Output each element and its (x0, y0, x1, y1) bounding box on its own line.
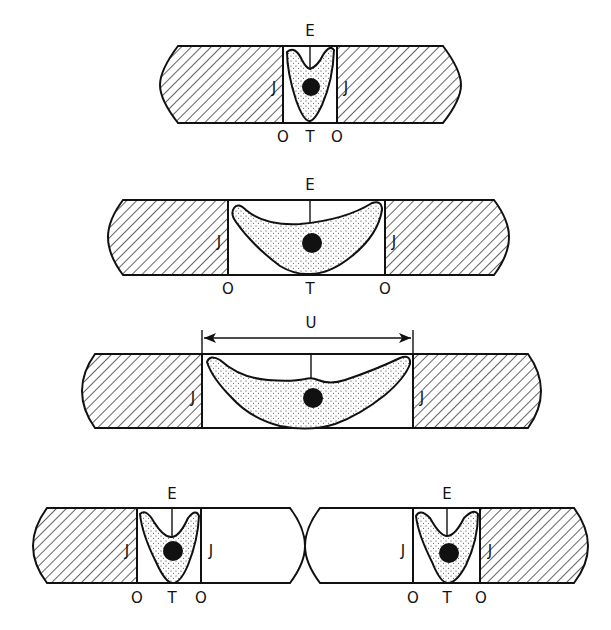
label-O-left: O (222, 280, 234, 298)
hatched-block-left (108, 200, 228, 275)
label-J-right: J (208, 542, 213, 560)
label-J-left: J (400, 542, 405, 560)
nucleus (303, 388, 323, 408)
label-J-left: J (216, 233, 221, 251)
label-O-right: O (195, 589, 207, 607)
nucleus (302, 78, 320, 96)
label-E: E (442, 485, 451, 503)
label-O-right: O (379, 280, 391, 298)
hatched-block (480, 508, 588, 583)
label-T: T (304, 128, 315, 146)
hatched-block (33, 508, 137, 583)
label-J-right: J (343, 79, 348, 97)
label-O-left: O (131, 589, 143, 607)
label-O-left: O (277, 128, 289, 146)
label-O-right: O (331, 128, 343, 146)
label-J-right: J (487, 542, 492, 560)
label-T: T (166, 589, 177, 607)
label-J-left: J (190, 389, 195, 407)
panel-4-right: E J J O T O (305, 485, 588, 607)
panel-1: E J J O T O (160, 22, 461, 146)
label-J-right: J (419, 389, 424, 407)
label-J-right: J (391, 233, 396, 251)
label-U: U (306, 314, 317, 332)
label-E: E (305, 22, 314, 40)
hatched-block-right (385, 200, 509, 275)
label-T: T (304, 280, 315, 298)
label-J-left: J (271, 79, 276, 97)
nucleus (163, 541, 183, 561)
label-J-left: J (124, 542, 129, 560)
label-O-left: O (407, 589, 419, 607)
hatched-block-left (82, 354, 202, 428)
nucleus (302, 233, 322, 253)
hatched-block-right (337, 46, 461, 123)
hatched-block-left (160, 46, 283, 123)
diagram-canvas: E J J O T O E J J O T O U (0, 0, 611, 630)
panel-3: U J J (82, 314, 541, 429)
label-E: E (305, 176, 314, 194)
label-O-right: O (475, 589, 487, 607)
panel-4-left: E J J O T O (33, 485, 305, 607)
panel-2: E J J O T O (108, 176, 509, 298)
hatched-block-right (413, 354, 541, 428)
label-T: T (441, 589, 452, 607)
nucleus (439, 543, 459, 563)
label-E: E (167, 485, 176, 503)
